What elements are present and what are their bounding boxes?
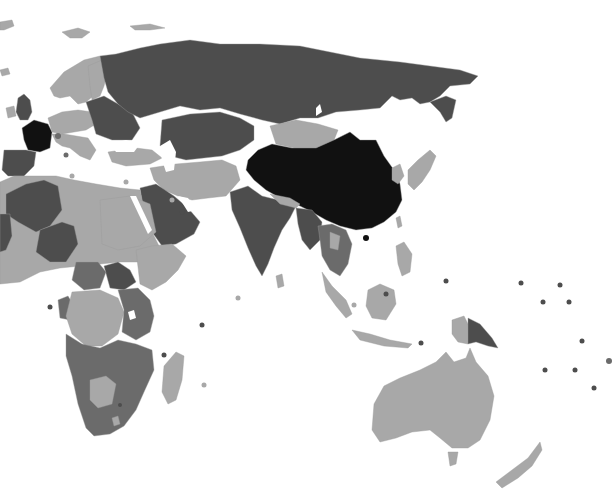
island-dot-marker (558, 283, 563, 288)
island-dot-marker (124, 180, 129, 185)
island-dot-marker (55, 133, 61, 139)
island-dot-marker (202, 383, 207, 388)
island-dot-marker (419, 341, 424, 346)
island-dot-marker (567, 300, 572, 305)
island-dot-marker (573, 368, 578, 373)
island-dot-marker (352, 303, 357, 308)
island-dot-marker (444, 279, 449, 284)
island-dot-marker (543, 368, 548, 373)
island-dot-marker (64, 153, 69, 158)
island-dot-marker (363, 235, 369, 241)
island-dot-marker (519, 281, 524, 286)
island-dot-marker (606, 358, 612, 364)
island-dot-marker (170, 198, 175, 203)
island-dot-marker (580, 339, 585, 344)
island-dot-marker (162, 353, 167, 358)
island-dot-marker (48, 305, 53, 310)
choropleth-map (0, 0, 612, 502)
region-ireland (6, 106, 16, 118)
region-botswana (90, 376, 116, 408)
island-dot-marker (180, 210, 185, 215)
world-map-canvas (0, 0, 612, 502)
island-dot-marker (236, 296, 241, 301)
island-dot-marker (70, 174, 75, 179)
island-dot-marker (118, 403, 122, 407)
island-dot-marker (200, 323, 205, 328)
island-dot-marker (541, 300, 546, 305)
island-dot-marker (384, 292, 389, 297)
island-dot-marker (592, 386, 597, 391)
